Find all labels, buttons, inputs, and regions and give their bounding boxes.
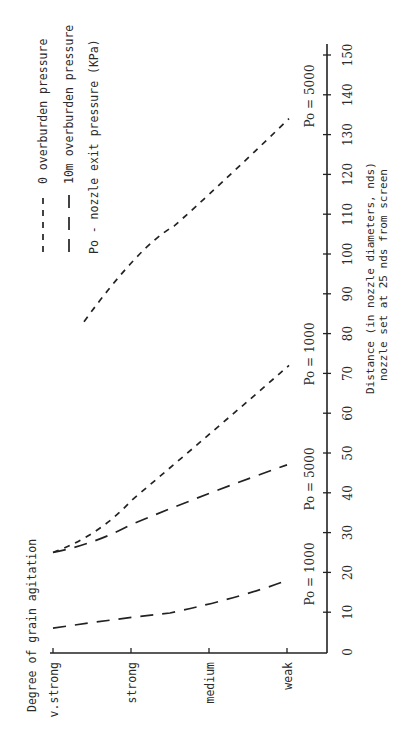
category-strong: strong xyxy=(125,662,139,704)
annotation-10m-po1000: Po = 1000 xyxy=(303,542,317,605)
agitation-axis-title: Degree of grain agitation xyxy=(25,539,39,712)
svg-text:70: 70 xyxy=(341,366,355,381)
svg-text:90: 90 xyxy=(341,286,355,301)
svg-text:80: 80 xyxy=(341,326,355,341)
legend-label-0-overburden: 0 overburden pressure xyxy=(36,39,50,184)
distance-tick-labels: 0 10 20 30 40 50 60 70 80 90 100 110 120… xyxy=(341,44,355,656)
category-v-strong: v.strong xyxy=(47,662,61,717)
svg-text:50: 50 xyxy=(341,445,355,460)
curve-annotations: Po = 1000 Po = 5000 Po = 1000 Po = 5000 xyxy=(303,64,317,605)
svg-text:130: 130 xyxy=(341,123,355,146)
svg-text:120: 120 xyxy=(341,163,355,186)
svg-text:100: 100 xyxy=(341,243,355,266)
svg-text:20: 20 xyxy=(341,565,355,580)
annotation-0-po5000: Po = 5000 xyxy=(303,64,317,127)
distance-axis-note: nozzle set at 25 nds from screen xyxy=(377,169,390,381)
curve-0-po1000 xyxy=(53,365,289,552)
curve-10m-po1000 xyxy=(53,580,287,628)
svg-text:40: 40 xyxy=(341,485,355,500)
legend: 0 overburden pressure 10m overburden pre… xyxy=(36,25,101,254)
curve-0-po5000 xyxy=(84,119,289,322)
svg-text:140: 140 xyxy=(341,83,355,106)
legend-label-10m-overburden: 10m overburden pressure xyxy=(62,25,76,184)
category-medium: medium xyxy=(203,662,217,704)
agitation-category-labels: weak medium strong v.strong xyxy=(47,662,295,717)
distance-axis-title: Distance (in nozzle diameters, nds) xyxy=(364,162,377,394)
grain-agitation-chart: 0 overburden pressure 10m overburden pre… xyxy=(0,0,404,744)
curve-10m-po5000 xyxy=(53,465,287,553)
svg-text:30: 30 xyxy=(341,525,355,540)
category-weak: weak xyxy=(281,662,295,690)
legend-label-po-definition: Po - nozzle exit pressure (KPa) xyxy=(87,39,101,254)
svg-text:150: 150 xyxy=(341,44,355,67)
annotation-10m-po5000: Po = 5000 xyxy=(303,447,317,510)
annotation-0-po1000: Po = 1000 xyxy=(303,322,317,385)
svg-text:0: 0 xyxy=(341,648,355,656)
svg-text:60: 60 xyxy=(341,406,355,421)
svg-text:10: 10 xyxy=(341,605,355,620)
svg-text:110: 110 xyxy=(341,203,355,226)
